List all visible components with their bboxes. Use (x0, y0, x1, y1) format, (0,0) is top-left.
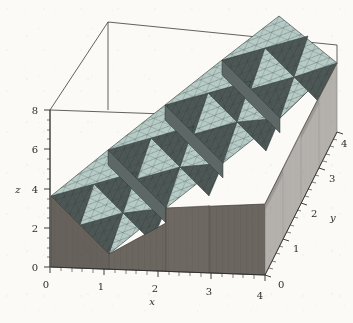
z-axis: 0 2 4 6 8 z (14, 105, 50, 273)
y-tick-label-1: 1 (293, 243, 299, 254)
y-tick-label-4: 4 (341, 138, 347, 149)
z-tick-label-2: 2 (32, 223, 38, 234)
x-tick-label-1: 1 (98, 281, 104, 292)
x-axis-title: x (149, 296, 155, 307)
z-tick-label-8: 8 (32, 105, 38, 116)
x-tick-label-2: 2 (152, 283, 158, 294)
z-tick-label-0: 0 (32, 262, 38, 273)
y-tick-label-2: 2 (311, 208, 317, 219)
x-tick-label-0: 0 (43, 279, 49, 290)
surface-plot-figure: 0 2 4 6 8 z (0, 0, 353, 323)
x-tick-label-3: 3 (206, 286, 212, 297)
y-tick-label-0: 0 (278, 279, 284, 290)
z-tick-label-4: 4 (32, 184, 38, 195)
z-axis-title: z (14, 184, 21, 195)
plot-canvas: 0 2 4 6 8 z (0, 0, 353, 323)
y-axis-title: y (329, 212, 336, 223)
y-tick-label-3: 3 (329, 173, 335, 184)
z-tick-label-6: 6 (32, 144, 38, 155)
x-tick-label-4: 4 (257, 290, 263, 301)
